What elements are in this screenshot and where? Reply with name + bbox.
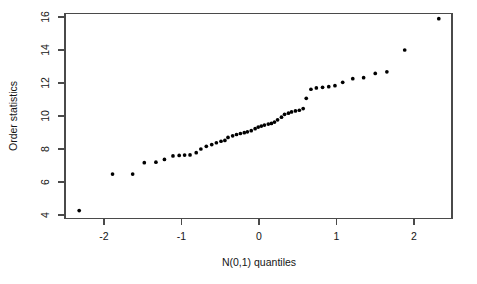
data-point <box>177 154 181 158</box>
data-point <box>304 96 308 100</box>
y-tick-label: 8 <box>39 146 51 152</box>
data-point <box>215 141 219 145</box>
data-point <box>333 84 337 88</box>
x-tick-label: 2 <box>411 230 417 242</box>
y-tick-label: 4 <box>39 212 51 218</box>
plot-canvas: 46810121416 -2-1012 N(0,1) quantiles Ord… <box>0 0 477 284</box>
data-point <box>301 107 305 111</box>
data-point <box>204 145 208 149</box>
data-point <box>226 136 230 140</box>
data-point <box>327 85 331 89</box>
data-point <box>154 160 158 164</box>
data-point <box>188 153 192 157</box>
data-point <box>309 87 313 91</box>
data-point <box>294 109 298 113</box>
data-point <box>142 161 146 165</box>
data-point <box>437 17 441 21</box>
data-point <box>235 133 239 137</box>
data-point <box>283 113 287 117</box>
data-point <box>385 70 389 74</box>
data-point <box>183 153 187 157</box>
y-tick-label: 10 <box>39 110 51 122</box>
data-point <box>77 209 81 213</box>
data-point <box>362 76 366 80</box>
data-point <box>231 134 235 138</box>
data-point <box>321 85 325 89</box>
data-point <box>131 172 135 176</box>
data-point <box>351 77 355 81</box>
data-point <box>266 122 270 126</box>
data-point <box>239 132 243 136</box>
x-tick-label: -2 <box>99 230 108 242</box>
data-point <box>219 139 223 143</box>
y-tick-label: 16 <box>39 11 51 23</box>
y-tick-label: 14 <box>39 44 51 56</box>
data-point <box>263 123 267 127</box>
data-point <box>246 130 250 134</box>
x-tick-label: 1 <box>334 230 340 242</box>
data-point <box>223 139 227 143</box>
data-point <box>111 172 115 176</box>
data-point <box>280 115 284 119</box>
figure-background <box>0 0 477 284</box>
data-point <box>171 154 175 158</box>
data-point <box>194 151 198 155</box>
data-point <box>163 158 167 162</box>
data-point <box>273 120 277 124</box>
y-tick-label: 6 <box>39 179 51 185</box>
data-point <box>249 129 253 133</box>
data-point <box>297 108 301 112</box>
data-point <box>210 143 214 147</box>
data-point <box>242 131 246 135</box>
x-tick-label: 0 <box>256 230 262 242</box>
y-axis-title: Order statistics <box>7 81 19 151</box>
y-tick-label: 12 <box>39 77 51 89</box>
data-point <box>373 72 377 76</box>
data-point <box>199 147 203 151</box>
data-point <box>315 86 319 90</box>
data-point <box>290 110 294 114</box>
qq-plot-figure: 46810121416 -2-1012 N(0,1) quantiles Ord… <box>0 0 477 284</box>
x-axis-title: N(0,1) quantiles <box>222 256 296 268</box>
x-tick-label: -1 <box>177 230 186 242</box>
data-point <box>341 80 345 84</box>
data-point <box>276 118 280 122</box>
data-point <box>403 48 407 52</box>
